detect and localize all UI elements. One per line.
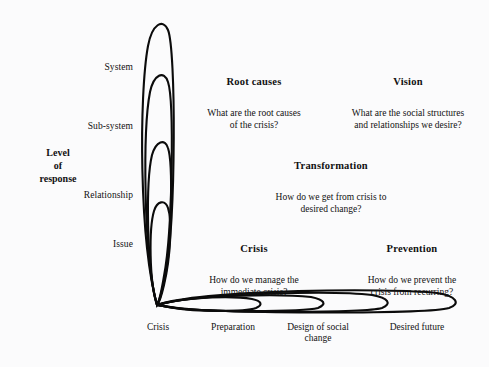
axis-title-level-of-response: Level of response bbox=[26, 146, 90, 186]
quadrant-vision-body: What are the social structures and relat… bbox=[325, 108, 489, 131]
quadrant-root-causes-title: Root causes bbox=[174, 76, 334, 88]
quadrant-transformation-body: How do we get from crisis to desired cha… bbox=[251, 192, 411, 215]
quadrant-root-causes-body: What are the root causes of the crisis? bbox=[174, 108, 334, 131]
quadrant-prevention: Prevention How do we prevent the crisis … bbox=[332, 224, 489, 317]
quadrant-transformation: Transformation How do we get from crisis… bbox=[251, 141, 411, 234]
quadrant-root-causes: Root causes What are the root causes of … bbox=[174, 57, 334, 150]
time-label-desired-future: Desired future bbox=[375, 322, 459, 333]
time-label-design-of-social-change: Design of social change bbox=[276, 322, 360, 345]
axis-label-system: System bbox=[53, 62, 133, 73]
quadrant-crisis: Crisis How do we manage the immediate cr… bbox=[174, 224, 334, 317]
quadrant-transformation-title: Transformation bbox=[251, 160, 411, 172]
quadrant-prevention-body: How do we prevent the crisis from recurr… bbox=[332, 275, 489, 298]
axis-label-issue: Issue bbox=[53, 239, 133, 250]
axis-label-sub-system: Sub-system bbox=[53, 121, 133, 132]
time-label-crisis: Crisis bbox=[128, 322, 188, 333]
quadrant-crisis-title: Crisis bbox=[174, 243, 334, 255]
axis-label-relationship: Relationship bbox=[53, 190, 133, 201]
quadrant-crisis-body: How do we manage the immediate crisis? bbox=[174, 275, 334, 298]
diagram-canvas: Level of response System Sub-system Rela… bbox=[0, 0, 489, 367]
quadrant-prevention-title: Prevention bbox=[332, 243, 489, 255]
quadrant-vision: Vision What are the social structures an… bbox=[325, 57, 489, 150]
time-label-preparation: Preparation bbox=[196, 322, 270, 333]
quadrant-vision-title: Vision bbox=[325, 76, 489, 88]
